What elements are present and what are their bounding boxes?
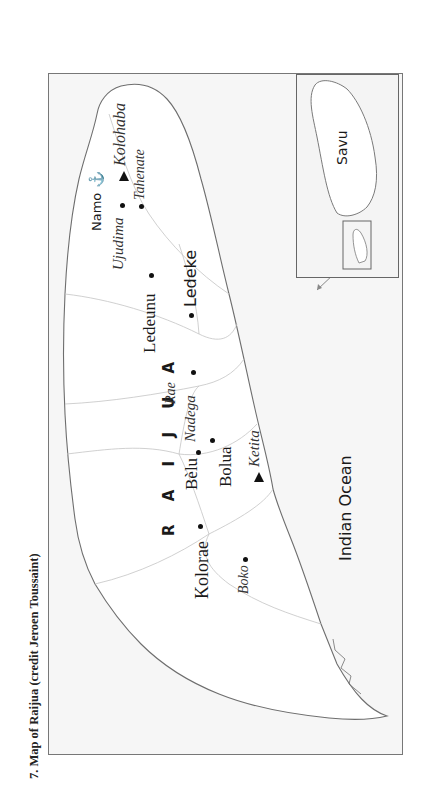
inset-label-savu: Savu (335, 130, 349, 165)
inset-map-savu: Savu (296, 74, 399, 278)
savu-island-shape (297, 73, 400, 277)
map-frame: R A I J U A Namo ⚓ Ujudima Tahenate Kolo… (48, 73, 403, 755)
map-page: 7. Map of Raijua (credit Jeroen Toussain… (0, 0, 432, 787)
figure-caption: 7. Map of Raijua (credit Jeroen Toussain… (27, 553, 42, 779)
